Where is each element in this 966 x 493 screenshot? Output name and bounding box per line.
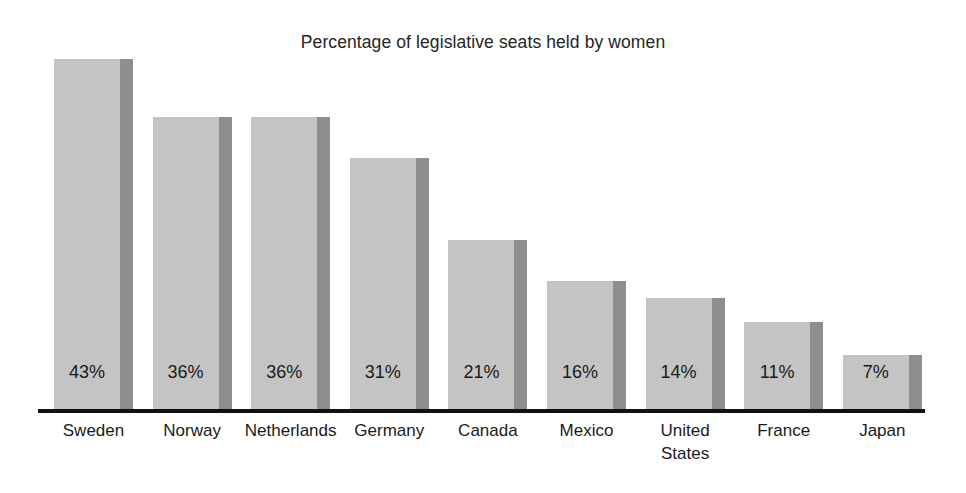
category-label: Germany	[336, 419, 443, 442]
bar-value-label: 36%	[251, 363, 317, 381]
category-axis-labels: SwedenNorwayNetherlandsGermanyCanadaMexi…	[0, 419, 966, 489]
bar-group: 14%	[646, 2, 725, 413]
category-label-line: Netherlands	[237, 419, 344, 442]
x-axis-line	[38, 409, 925, 413]
bar-group: 36%	[251, 2, 330, 413]
category-label: Sweden	[40, 419, 147, 442]
plot-area: 43%36%36%31%21%16%14%11%7%	[0, 0, 966, 413]
bar-shadow-edge	[416, 158, 429, 413]
bar-value-label: 16%	[547, 363, 613, 381]
bar: 21%	[448, 240, 527, 413]
bar-group: 36%	[153, 2, 232, 413]
bar-face	[547, 281, 613, 413]
bar: 31%	[350, 158, 429, 413]
bar-shadow-edge	[712, 298, 725, 413]
bar: 7%	[843, 355, 922, 413]
category-label-line: Germany	[336, 419, 443, 442]
bar-shadow-edge	[317, 117, 330, 413]
bar-face	[646, 298, 712, 413]
bar-face	[54, 59, 120, 413]
bar-group: 43%	[54, 2, 133, 413]
bar: 14%	[646, 298, 725, 413]
category-label-line: United	[632, 419, 739, 442]
bar-value-label: 43%	[54, 363, 120, 381]
category-label-line: Japan	[829, 419, 936, 442]
bar-shadow-edge	[514, 240, 527, 413]
bar-value-label: 7%	[843, 363, 909, 381]
bar: 11%	[744, 322, 823, 413]
category-label-line: Canada	[434, 419, 541, 442]
bar-group: 11%	[744, 2, 823, 413]
bar-chart-figure: Percentage of legislative seats held by …	[0, 0, 966, 493]
bar-group: 7%	[843, 2, 922, 413]
bar-shadow-edge	[613, 281, 626, 413]
bar-shadow-edge	[810, 322, 823, 413]
bar-value-label: 36%	[153, 363, 219, 381]
category-label: UnitedStates	[632, 419, 739, 465]
bar-value-label: 21%	[448, 363, 514, 381]
category-label: France	[730, 419, 837, 442]
bar-value-label: 31%	[350, 363, 416, 381]
bar: 16%	[547, 281, 626, 413]
bar-group: 16%	[547, 2, 626, 413]
category-label: Mexico	[533, 419, 640, 442]
bar-face	[448, 240, 514, 413]
category-label-line: Mexico	[533, 419, 640, 442]
category-label-line: France	[730, 419, 837, 442]
category-label-line: Norway	[139, 419, 246, 442]
bar: 43%	[54, 59, 133, 413]
bar: 36%	[153, 117, 232, 413]
bar-group: 21%	[448, 2, 527, 413]
category-label: Norway	[139, 419, 246, 442]
bar-shadow-edge	[219, 117, 232, 413]
category-label-line: Sweden	[40, 419, 147, 442]
bar-shadow-edge	[120, 59, 133, 413]
category-label-line: States	[632, 442, 739, 465]
category-label: Netherlands	[237, 419, 344, 442]
category-label: Canada	[434, 419, 541, 442]
bar-value-label: 11%	[744, 363, 810, 381]
bar-shadow-edge	[909, 355, 922, 413]
bar-group: 31%	[350, 2, 429, 413]
bar-value-label: 14%	[646, 363, 712, 381]
bar: 36%	[251, 117, 330, 413]
category-label: Japan	[829, 419, 936, 442]
